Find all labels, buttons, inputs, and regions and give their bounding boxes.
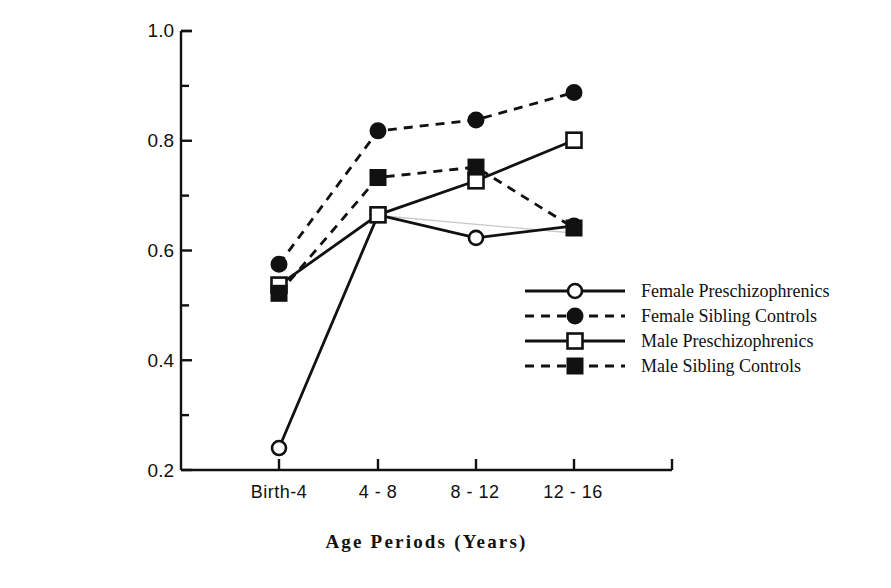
series-line-1	[279, 92, 574, 264]
axis-ticks	[181, 31, 574, 470]
data-point-2-1	[371, 207, 386, 222]
data-point-0-0	[272, 441, 286, 455]
legend-label-2: Male Preschizophrenics	[641, 331, 813, 352]
legend-marker-1	[568, 309, 583, 324]
data-point-0-2	[469, 231, 483, 245]
legend-symbols	[525, 284, 625, 374]
series-line-2	[279, 140, 574, 285]
data-point-1-2	[469, 112, 484, 127]
legend-marker-0	[568, 284, 582, 298]
data-point-3-0	[272, 286, 287, 301]
data-series-layer	[272, 85, 582, 455]
data-point-1-3	[567, 85, 582, 100]
series-line-0	[279, 215, 574, 448]
data-point-3-3	[567, 221, 582, 236]
data-point-3-2	[469, 160, 484, 175]
legend-label-1: Female Sibling Controls	[641, 306, 817, 327]
legend-marker-3	[568, 359, 583, 374]
chart-figure: Mean Proportional Durations of Joy Expre…	[0, 0, 891, 588]
data-point-1-1	[371, 123, 386, 138]
legend-marker-2	[568, 334, 583, 349]
data-point-1-0	[272, 257, 287, 272]
legend-label-3: Male Sibling Controls	[641, 356, 801, 377]
data-point-3-1	[371, 170, 386, 185]
legend-label-0: Female Preschizophrenics	[641, 281, 829, 302]
axis-lines	[181, 31, 672, 470]
data-point-2-3	[567, 133, 582, 148]
